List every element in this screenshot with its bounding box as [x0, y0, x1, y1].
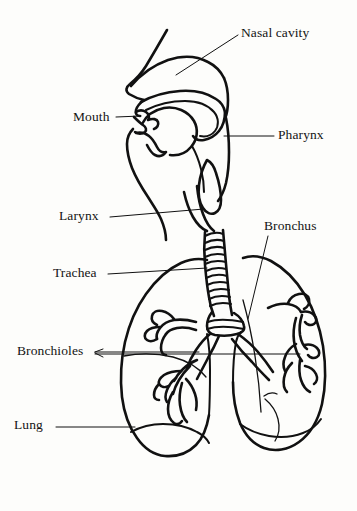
label-mouth: Mouth [73, 110, 110, 124]
lung-left-medial-border [207, 334, 210, 415]
label-trachea: Trachea [53, 266, 97, 280]
respiratory-system-diagram: Nasal cavity Mouth Pharynx Larynx Bronch… [0, 0, 357, 511]
larynx-cartilage [184, 192, 207, 231]
anatomy-illustration [0, 0, 357, 511]
lung-right-sketch-stroke [264, 393, 277, 396]
trachea-left-wall [204, 232, 214, 316]
epiglottis [199, 160, 221, 214]
label-larynx: Larynx [59, 209, 99, 223]
label-lung: Lung [14, 418, 43, 432]
label-nasal-cavity: Nasal cavity [241, 26, 309, 40]
lung-right-medial-border [233, 332, 241, 382]
carina-ring-2 [207, 327, 244, 329]
leader-line-mouth [116, 116, 141, 117]
bronchial-tree-left [145, 311, 197, 424]
label-bronchus: Bronchus [264, 219, 317, 233]
leader-line-nasal-cavity [176, 35, 238, 75]
carina-ring-1 [208, 320, 243, 322]
leader-line-trachea [108, 268, 207, 274]
leader-line-bronchus [248, 236, 268, 319]
label-pharynx: Pharynx [278, 128, 324, 142]
mouth-teeth-upper [136, 111, 158, 130]
face-profile-outline [126, 30, 167, 100]
nasal-cavity-roof [131, 57, 224, 86]
tongue-outline [142, 108, 197, 156]
lung-left-inferior-margin [131, 424, 209, 443]
label-bronchioles: Bronchioles [17, 344, 83, 358]
leader-arrowhead-bronchioles [95, 349, 103, 357]
mouth-teeth-lower [136, 133, 166, 156]
